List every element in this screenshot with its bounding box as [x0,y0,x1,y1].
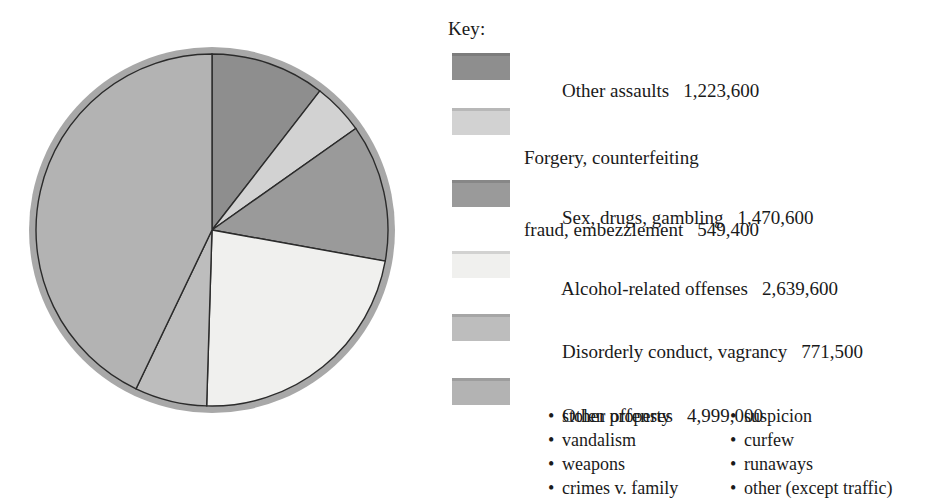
pie-svg [14,32,410,428]
sublist-row: •vandalism•curfew [524,428,924,452]
sublist-row: •weapons•runaways [524,452,924,476]
sublist-item: •stolen property [548,404,670,428]
sublist-row: •crimes v. family•other (except traffic) [524,476,924,498]
legend: Key: Other assaults1,223,600 Forgery, co… [440,8,925,492]
bullet-icon: • [548,428,562,452]
sublist-item: •runaways [730,452,813,476]
legend-label-alcohol-related: Alcohol-related offenses2,639,600 [524,253,838,325]
bullet-icon: • [730,428,744,452]
legend-label-text: Sex, drugs, gambling [562,207,724,228]
legend-key-label: Key: [448,18,485,40]
bullet-icon: • [730,404,744,428]
legend-label-sex-drugs-gambling: Sex, drugs, gambling1,470,600 [524,182,814,254]
sublist-item: •suspicion [730,404,812,428]
sublist-item: •other (except traffic) [730,476,893,498]
legend-swatch-forgery [452,108,510,135]
sublist-item: •crimes v. family [548,476,678,498]
sublist-item: •weapons [548,452,625,476]
legend-swatch-other-assaults [452,53,510,80]
bullet-icon: • [730,476,744,498]
legend-value: 1,470,600 [724,207,814,228]
sublist-row: •stolen property•suspicion [524,404,924,428]
legend-swatch-other-offenses [452,378,510,405]
bullet-icon: • [548,404,562,428]
legend-label-text: Disorderly conduct, vagrancy [562,341,787,362]
sublist-item: •vandalism [548,428,636,452]
bullet-icon: • [548,476,562,498]
pie-slice[interactable] [207,230,386,406]
legend-label-disorderly-conduct: Disorderly conduct, vagrancy771,500 [524,316,863,388]
other-offenses-sublist: •stolen property•suspicion•vandalism•cur… [524,404,924,498]
legend-swatch-disorderly-conduct [452,314,510,341]
pie-slices-group [36,54,388,406]
legend-value: 2,639,600 [748,278,838,299]
pie-chart-graphic [14,32,410,428]
legend-value: 771,500 [787,341,863,362]
legend-label-text: Alcohol-related offenses [561,278,748,299]
legend-label-text-line1: Forgery, counterfeiting [524,146,759,170]
sublist-item: •curfew [730,428,794,452]
legend-swatch-alcohol-related [452,251,510,278]
legend-swatch-sex-drugs-gambling [452,180,510,207]
bullet-icon: • [730,452,744,476]
bullet-icon: • [548,452,562,476]
pie-chart-figure: Key: Other assaults1,223,600 Forgery, co… [0,0,925,498]
